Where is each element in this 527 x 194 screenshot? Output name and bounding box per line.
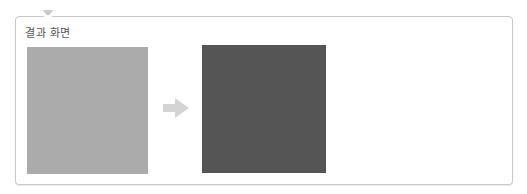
- panel-title: 결과 화면: [25, 24, 71, 40]
- before-image: [27, 47, 148, 174]
- callout-notch-mask: [44, 15, 52, 18]
- after-image: [202, 45, 326, 173]
- arrow-right-icon: [163, 98, 189, 118]
